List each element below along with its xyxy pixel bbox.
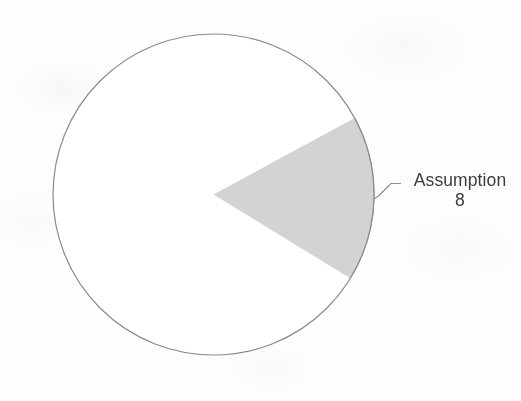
callout-label-line-2: 8 [401,190,519,210]
callout-label-line-1: Assumption [414,170,506,190]
callout-leader-line [374,184,401,200]
pie-slice-callout-label: Assumption 8 [401,170,519,210]
pie-chart-figure: Assumption 8 [0,0,521,401]
